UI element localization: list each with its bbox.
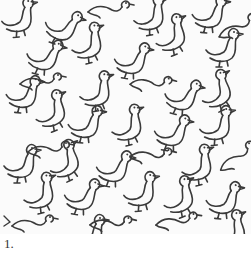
duck-row-6 bbox=[19, 170, 245, 222]
duck-tessellation bbox=[0, 0, 251, 234]
duck-pattern-figure bbox=[0, 0, 251, 234]
figure-caption: 1. bbox=[4, 236, 14, 252]
duck-row-3 bbox=[5, 66, 244, 120]
duck-row-2 bbox=[23, 11, 243, 82]
duck-row-1 bbox=[0, 0, 251, 51]
